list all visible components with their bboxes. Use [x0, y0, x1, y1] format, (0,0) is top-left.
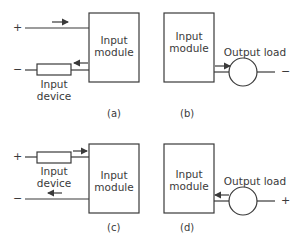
caption-b: (b) [180, 108, 194, 119]
minus-terminal-c: − [13, 193, 22, 204]
input-device-resistor-c [37, 152, 71, 163]
module-label-b: Input module [164, 30, 214, 54]
output-load-label-d: Output load [220, 175, 290, 187]
terminal-b: − [281, 66, 290, 77]
module-label-d: Input module [164, 168, 214, 192]
output-load-label-b: Output load [220, 46, 290, 58]
circuit-diagram [0, 0, 294, 241]
module-label-c: Input module [89, 169, 139, 193]
caption-a: (a) [107, 108, 121, 119]
device-label-c: Input device [29, 165, 79, 189]
output-load-circle-b [229, 58, 257, 86]
device-label-a: Input device [29, 78, 79, 102]
caption-c: (c) [107, 222, 120, 233]
module-label-a: Input module [89, 34, 139, 58]
caption-d: (d) [180, 222, 194, 233]
plus-terminal-a: + [13, 22, 22, 33]
plus-terminal-c: + [13, 151, 22, 162]
output-load-circle-d [229, 187, 257, 215]
terminal-d: + [281, 195, 290, 206]
minus-terminal-a: − [13, 64, 22, 75]
input-device-resistor-a [37, 64, 71, 75]
